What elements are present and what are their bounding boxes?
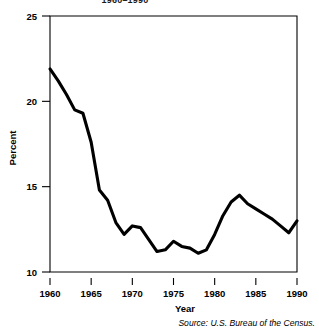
x-tick-label-1975: 1975 (163, 288, 185, 299)
series-line (50, 69, 297, 253)
x-tick-label-1960: 1960 (39, 288, 60, 299)
y-tick-label-10: 10 (26, 267, 37, 278)
chart-container: 1960–1990 10152025 196019651970197519801… (0, 0, 319, 334)
x-tick-label-1990: 1990 (286, 288, 307, 299)
x-tick-label-1965: 1965 (81, 288, 103, 299)
y-axis-ticks (42, 16, 50, 272)
x-tick-label-1985: 1985 (245, 288, 267, 299)
x-axis-tick-labels: 1960196519701975198019851990 (39, 288, 307, 299)
source-note: Source: U.S. Bureau of the Census. (178, 318, 315, 328)
y-tick-label-25: 25 (26, 11, 37, 22)
x-tick-label-1980: 1980 (204, 288, 225, 299)
line-chart: 10152025 1960196519701975198019851990 Pe… (0, 0, 319, 334)
x-tick-label-1970: 1970 (122, 288, 143, 299)
x-axis-ticks (50, 278, 297, 285)
plot-frame (50, 16, 297, 272)
data-series-poverty-rate (50, 69, 297, 253)
y-axis-title: Percent (7, 130, 18, 166)
y-tick-label-20: 20 (26, 96, 37, 107)
y-tick-label-15: 15 (26, 181, 37, 192)
y-axis-tick-labels: 10152025 (26, 11, 37, 278)
x-axis-title: Year (175, 303, 195, 314)
